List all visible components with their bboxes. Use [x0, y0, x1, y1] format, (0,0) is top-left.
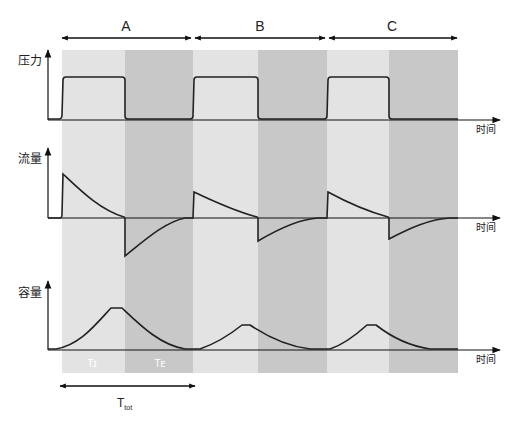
- pressure-x-label: 时间: [476, 123, 496, 135]
- band-expiration-a: [125, 50, 193, 373]
- phase-bands: [62, 50, 458, 373]
- flow-y-label: 流量: [18, 152, 42, 166]
- total-time-sub: tot: [124, 404, 132, 411]
- cycle-c-label: C: [387, 18, 397, 34]
- cycle-a-label: A: [121, 18, 131, 34]
- volume-y-label: 容量: [18, 285, 42, 300]
- inspiration-time-label: Tɪ: [87, 358, 97, 369]
- band-inspiration-a: [62, 50, 125, 373]
- band-expiration-c: [389, 50, 458, 373]
- volume-x-label: 时间: [476, 353, 496, 365]
- respiratory-waveform-diagram: A B C 压力 时间 流量 时间 容量 时间 Tɪ Tᴇ Ttot: [0, 0, 517, 422]
- band-inspiration-c: [327, 50, 389, 373]
- cycle-b-label: B: [255, 18, 264, 34]
- expiration-time-label: Tᴇ: [154, 358, 165, 369]
- band-expiration-b: [258, 50, 327, 373]
- pressure-y-label: 压力: [18, 54, 42, 68]
- cycle-arrows: A B C: [62, 18, 457, 38]
- total-time-label: Ttot: [117, 396, 132, 411]
- flow-x-label: 时间: [476, 221, 496, 233]
- total-time: Ttot: [60, 386, 195, 411]
